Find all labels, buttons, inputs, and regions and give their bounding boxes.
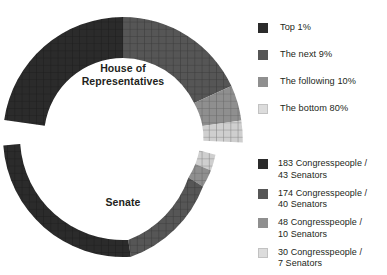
- legend-swatch-following10: [258, 77, 268, 87]
- legend-count-text: 48 Congresspeople / 10 Senators: [278, 217, 362, 240]
- legend-count-line1: 48 Congresspeople /: [278, 217, 362, 227]
- legend-label: The bottom 80%: [280, 103, 348, 115]
- legend-count-text: 183 Congresspeople / 43 Senators: [278, 158, 367, 181]
- legend-swatch-following10-counts: [258, 218, 268, 228]
- legend-count-text: 174 Congresspeople / 40 Senators: [278, 188, 367, 211]
- legend-item[interactable]: Top 1%: [258, 22, 387, 49]
- legend-item[interactable]: 48 Congresspeople / 10 Senators: [258, 217, 387, 240]
- legend-swatch-top1: [258, 23, 268, 33]
- legend-count-line2: 43 Senators: [278, 170, 327, 180]
- legend-count-line1: 174 Congresspeople /: [278, 188, 367, 198]
- legend-item[interactable]: 174 Congresspeople / 40 Senators: [258, 188, 387, 211]
- legend-count-line1: 183 Congresspeople /: [278, 158, 367, 168]
- legend-item[interactable]: The bottom 80%: [258, 103, 387, 130]
- house-segment-next9[interactable]: [123, 17, 231, 103]
- legend-count-line2: 7 Senators: [278, 258, 322, 268]
- house-ring-label: House of Representatives: [63, 62, 183, 88]
- legend-swatch-bottom80: [258, 104, 268, 114]
- legend-item[interactable]: The next 9%: [258, 49, 387, 76]
- chart-page: House of Representatives Senate Top 1% T…: [0, 0, 387, 275]
- legend-label: The following 10%: [280, 76, 356, 88]
- legend-count-line2: 10 Senators: [278, 229, 327, 239]
- legend-label: The next 9%: [280, 49, 332, 61]
- senate-ring-label-text: Senate: [63, 196, 183, 209]
- legend-swatch-next9: [258, 50, 268, 60]
- legend-counts: 183 Congresspeople / 43 Senators 174 Con…: [258, 158, 387, 275]
- legend-label: Top 1%: [280, 22, 311, 34]
- legend-categories: Top 1% The next 9% The following 10% The…: [258, 22, 387, 130]
- legend-swatch-top1-counts: [258, 159, 268, 169]
- donut-svg: [0, 0, 250, 275]
- house-ring-label-line2: Representatives: [63, 75, 183, 88]
- nested-donut-chart: House of Representatives Senate: [0, 0, 250, 275]
- house-ring-label-line1: House of: [63, 62, 183, 75]
- senate-segment-next9[interactable]: [128, 178, 203, 257]
- senate-ring-label: Senate: [63, 196, 183, 209]
- legend-count-line1: 30 Congresspeople /: [278, 247, 362, 257]
- legend-count-text: 30 Congresspeople / 7 Senators: [278, 247, 362, 270]
- legend-count-line2: 40 Senators: [278, 199, 327, 209]
- legend-swatch-bottom80-counts: [258, 248, 268, 258]
- legend-swatch-next9-counts: [258, 189, 268, 199]
- legend-item[interactable]: The following 10%: [258, 76, 387, 103]
- legend-item[interactable]: 183 Congresspeople / 43 Senators: [258, 158, 387, 181]
- legend-item[interactable]: 30 Congresspeople / 7 Senators: [258, 247, 387, 270]
